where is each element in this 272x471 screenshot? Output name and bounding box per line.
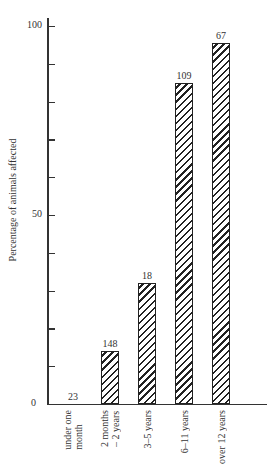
y-tick-label-0: 0 <box>6 397 36 408</box>
bar <box>212 43 230 404</box>
y-tick <box>48 366 55 367</box>
x-category-label: under one month <box>62 410 84 450</box>
y-tick <box>48 328 55 329</box>
y-tick <box>48 291 55 292</box>
y-axis <box>47 18 49 405</box>
x-category-label: 3–5 years <box>142 410 153 449</box>
x-category-label: 6–11 years <box>179 410 190 453</box>
y-tick <box>48 215 55 216</box>
bar-value-label: 148 <box>95 338 125 349</box>
x-category-label: over 12 years <box>216 410 227 464</box>
bar-value-label: 23 <box>58 391 88 402</box>
y-tick <box>48 139 55 140</box>
bar-value-label: 67 <box>206 30 236 41</box>
y-tick <box>48 253 55 254</box>
bar <box>138 283 156 404</box>
y-tick <box>48 64 55 65</box>
y-tick-label-100: 100 <box>12 19 42 30</box>
x-axis <box>47 404 267 406</box>
bar-value-label: 109 <box>169 70 199 81</box>
y-tick <box>48 177 55 178</box>
bar-value-label: 18 <box>132 270 162 281</box>
bar <box>101 351 119 404</box>
bar <box>175 83 193 405</box>
x-category-label: 2 months – 2 years <box>99 410 121 447</box>
y-axis-label: Percentage of animals affected <box>7 139 18 262</box>
y-tick <box>48 26 55 27</box>
y-tick <box>48 102 55 103</box>
